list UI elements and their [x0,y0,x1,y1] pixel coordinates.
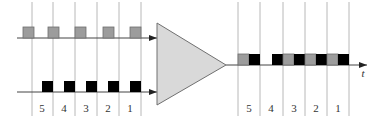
input-slot-label: 1 [127,102,133,114]
input-grid-lines [32,2,141,116]
gray-packet [283,54,294,65]
input-slot-label: 4 [61,102,67,114]
black-packet [338,54,349,65]
output-slot-label: 1 [335,102,341,114]
gray-packet [327,54,338,65]
gray-packet [130,27,141,38]
multiplexer-diagram: 5 4 3 2 1 t 5 4 3 2 1 [0,0,383,125]
black-packet [108,81,119,92]
output-line [226,54,367,65]
black-packet [64,81,75,92]
gray-packet [103,27,114,38]
gray-packet [75,27,86,38]
output-slot-label: 4 [268,102,274,114]
output-slot-label: 3 [291,102,297,114]
black-packet [316,54,327,65]
input-slot-label: 5 [39,102,45,114]
multiplexer-triangle [157,23,226,105]
gray-packet [238,54,249,65]
output-slot-label: 2 [313,102,319,114]
gray-packet [48,27,59,38]
black-packet [86,81,97,92]
time-axis-label: t [361,67,365,79]
gray-packet [23,27,34,38]
black-packet [130,81,141,92]
input-line-black [17,81,157,92]
black-packet [294,54,305,65]
input-line-gray [17,27,157,38]
input-slot-label: 2 [105,102,111,114]
gray-packet [305,54,316,65]
black-packet [249,54,260,65]
black-packet [42,81,53,92]
output-slot-label: 5 [246,102,252,114]
black-packet [272,54,283,65]
input-slot-label: 3 [83,102,89,114]
